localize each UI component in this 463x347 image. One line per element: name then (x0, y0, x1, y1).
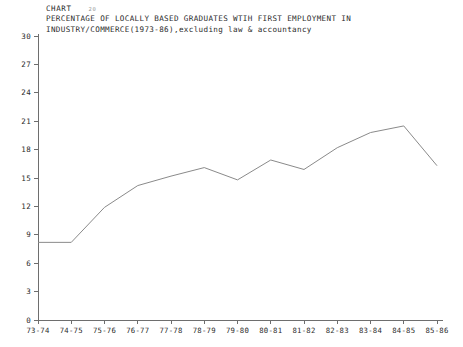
y-axis-tick-label: 30 (21, 32, 31, 41)
chart-container: CHART20 PERCENTAGE OF LOCALLY BASED GRAD… (0, 0, 463, 347)
y-axis-tick-label: 6 (26, 259, 31, 268)
x-axis-tick-label: 74-75 (60, 326, 83, 335)
x-axis-tick-label: 84-85 (392, 326, 415, 335)
y-axis-tick-label: 15 (21, 174, 31, 183)
y-axis-tick-label: 24 (21, 88, 31, 97)
y-axis: 036912151821242730 (21, 32, 38, 325)
x-axis-tick-label: 81-82 (293, 326, 316, 335)
x-axis: 73-7474-7575-7676-7777-7878-7979-8080-81… (27, 320, 449, 335)
y-axis-tick-label: 3 (26, 287, 31, 296)
y-axis-tick-label: 18 (21, 145, 31, 154)
x-axis-tick-label: 77-78 (160, 326, 183, 335)
x-axis-tick-label: 78-79 (193, 326, 216, 335)
x-axis-tick-label: 75-76 (93, 326, 116, 335)
x-axis-tick-label: 76-77 (126, 326, 149, 335)
chart-plot-area: 036912151821242730 73-7474-7575-7676-777… (0, 0, 463, 347)
x-axis-tick-label: 73-74 (27, 326, 50, 335)
y-axis-tick-label: 21 (21, 117, 31, 126)
x-axis-tick-label: 80-81 (259, 326, 282, 335)
y-axis-tick-label: 12 (21, 202, 31, 211)
x-axis-tick-label: 82-83 (326, 326, 349, 335)
x-axis-tick-label: 83-84 (359, 326, 382, 335)
y-axis-tick-label: 0 (26, 316, 31, 325)
y-axis-tick-label: 9 (26, 230, 31, 239)
x-axis-tick-label: 79-80 (226, 326, 249, 335)
y-axis-tick-label: 27 (21, 60, 31, 69)
x-axis-tick-label: 85-86 (426, 326, 449, 335)
series-polyline (38, 126, 437, 242)
data-series-line (38, 126, 437, 242)
